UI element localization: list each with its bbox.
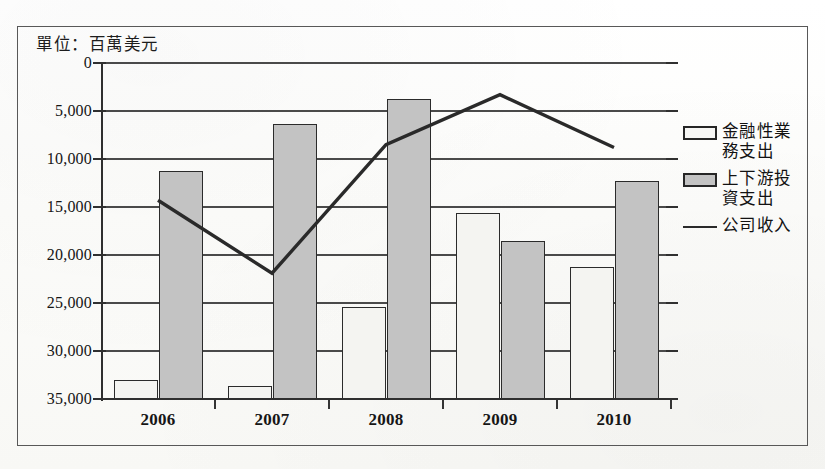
y-tick-mark: [93, 398, 106, 400]
y-tick-mark-right: [666, 350, 678, 352]
legend-swatch-line-icon: [683, 220, 717, 234]
bar-financial-business-expense-2010: [570, 267, 614, 399]
legend-item-company-revenue: 公司收入: [683, 216, 801, 236]
x-tick-mark: [328, 400, 330, 409]
x-tick-mark: [670, 400, 672, 409]
x-axis-line: [101, 398, 672, 400]
x-axis-tick-label: 2010: [596, 410, 631, 430]
y-axis-tick-label: 0: [6, 54, 92, 72]
y-tick-mark-right: [666, 302, 678, 304]
y-axis-tick-label: 10,000: [6, 150, 92, 168]
x-axis-tick-label: 2009: [482, 410, 517, 430]
y-tick-mark: [93, 254, 106, 256]
gridline: [101, 62, 671, 63]
y-tick-mark: [93, 158, 106, 160]
bar-upstream-downstream-investment-2009: [501, 241, 545, 399]
y-axis-tick-label: 25,000: [6, 294, 92, 312]
y-tick-mark-right: [666, 110, 678, 112]
y-tick-mark: [93, 62, 106, 64]
bar-financial-business-expense-2006: [114, 380, 158, 399]
legend-label: 上下游投資支出: [722, 169, 796, 209]
y-tick-mark-right: [666, 62, 678, 64]
x-tick-mark: [556, 400, 558, 409]
chart-legend: 金融性業務支出 上下游投資支出 公司收入: [683, 122, 801, 243]
legend-swatch-white-bar-icon: [683, 126, 717, 140]
legend-label: 公司收入: [722, 216, 791, 236]
legend-item-upstream-downstream-investment-expense: 上下游投資支出: [683, 169, 801, 209]
plot-area: [101, 63, 671, 399]
y-tick-mark: [93, 302, 106, 304]
legend-label: 金融性業務支出: [722, 122, 796, 162]
y-tick-mark: [93, 350, 106, 352]
legend-item-financial-business-expense: 金融性業務支出: [683, 122, 801, 162]
x-tick-mark: [442, 400, 444, 409]
y-axis-tick-label: 30,000: [6, 342, 92, 360]
y-axis-labels: 35,00030,00025,00020,00015,00010,0005,00…: [0, 0, 92, 469]
bar-upstream-downstream-investment-2008: [387, 99, 431, 399]
y-axis-tick-label: 35,000: [6, 390, 92, 408]
bar-upstream-downstream-investment-2007: [273, 124, 317, 399]
y-tick-mark: [93, 110, 106, 112]
bar-financial-business-expense-2009: [456, 213, 500, 399]
x-axis-tick-label: 2007: [254, 410, 289, 430]
y-axis-tick-label: 15,000: [6, 198, 92, 216]
x-axis-tick-label: 2006: [140, 410, 175, 430]
bar-upstream-downstream-investment-2010: [615, 181, 659, 399]
y-axis-tick-label: 5,000: [6, 102, 92, 120]
y-tick-mark: [93, 206, 106, 208]
bar-upstream-downstream-investment-2006: [159, 171, 203, 399]
y-tick-mark-right: [666, 398, 678, 400]
y-tick-mark-right: [666, 158, 678, 160]
bar-financial-business-expense-2008: [342, 307, 386, 399]
y-tick-mark-right: [666, 206, 678, 208]
y-tick-mark-right: [666, 254, 678, 256]
y-axis-tick-label: 20,000: [6, 246, 92, 264]
x-tick-mark: [214, 400, 216, 409]
x-axis-tick-label: 2008: [368, 410, 403, 430]
figure-page: 單位：百萬美元 35,00030,00025,00020,00015,00010…: [0, 0, 825, 469]
legend-swatch-gray-bar-icon: [683, 173, 717, 187]
